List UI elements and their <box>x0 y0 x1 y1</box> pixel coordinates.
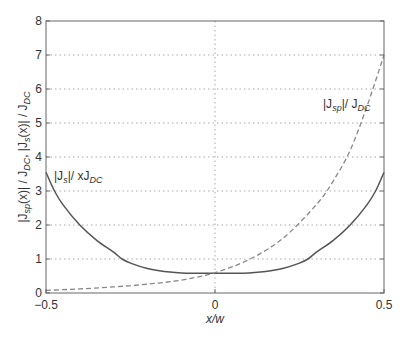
y-tick-label: 4 <box>35 150 42 164</box>
y-tick-label: 8 <box>35 14 42 28</box>
x-tick-label: −0.5 <box>34 298 58 312</box>
y-axis-label: |Jsp(x)| / JDC, |Js(x)| / JDC <box>16 91 32 223</box>
series-js-line <box>46 172 384 273</box>
y-tick-label: 3 <box>35 184 42 198</box>
x-tick-label: 0.5 <box>376 298 393 312</box>
y-tick-label: 5 <box>35 116 42 130</box>
annotation-js: |Js|/ xJDC <box>54 169 103 185</box>
x-tick-label: 0 <box>212 298 219 312</box>
x-axis-label: x/w <box>205 312 225 326</box>
y-tick-label: 2 <box>35 218 42 232</box>
y-tick-label: 6 <box>35 82 42 96</box>
y-tick-label: 1 <box>35 252 42 266</box>
axis-ticks: 012345678−0.500.5 <box>34 14 393 312</box>
chart: 012345678−0.500.5 x/w |Jsp(x)| / JDC, |J… <box>0 0 404 337</box>
annotation-jsp: |Jsp|/ JDC <box>323 97 371 113</box>
y-tick-label: 7 <box>35 48 42 62</box>
grid-lines <box>46 21 384 293</box>
